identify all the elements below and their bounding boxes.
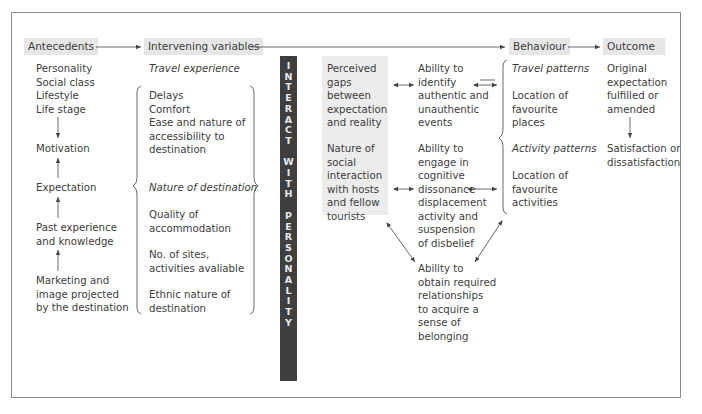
bracket-behaviour-left <box>499 60 507 214</box>
bracket-intervening-left <box>133 86 141 314</box>
connector-lines <box>0 0 702 414</box>
arrow-social-obtain <box>387 223 415 262</box>
bracket-intervening-right <box>250 86 258 314</box>
arrow-behaviour-obtain <box>475 221 502 262</box>
